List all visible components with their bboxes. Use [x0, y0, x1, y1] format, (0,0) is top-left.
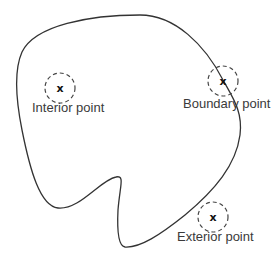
- interior-point-label: Interior point: [32, 101, 104, 114]
- boundary-point-label: Boundary point: [183, 97, 270, 110]
- diagram-canvas: x x x Interior point Boundary point Exte…: [0, 0, 280, 264]
- boundary-point-marker-icon: x: [219, 76, 226, 87]
- exterior-point-marker-icon: x: [209, 212, 216, 223]
- diagram-svg: [0, 0, 280, 264]
- region-boundary-curve: [17, 15, 241, 247]
- interior-point-marker-icon: x: [56, 83, 63, 94]
- exterior-point-label: Exterior point: [177, 230, 254, 243]
